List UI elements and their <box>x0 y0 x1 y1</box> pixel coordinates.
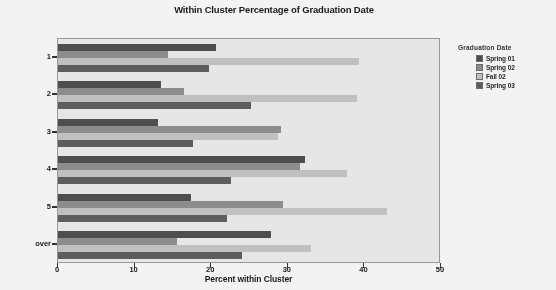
y-tick-label: 2 <box>47 89 51 98</box>
x-tick-label: 10 <box>129 265 137 274</box>
bar <box>58 58 359 65</box>
y-tick-label: 1 <box>47 52 51 61</box>
legend-label: Spring 02 <box>486 64 515 71</box>
bar <box>58 238 177 245</box>
x-tick-label: 50 <box>436 265 444 274</box>
bar <box>58 140 193 147</box>
bar <box>58 215 227 222</box>
y-tick-mark <box>52 56 57 58</box>
legend-item: Spring 03 <box>452 82 552 89</box>
y-tick-mark <box>52 206 57 208</box>
y-tick-mark <box>52 168 57 170</box>
bar-group <box>58 77 439 115</box>
bar <box>58 119 158 126</box>
bar-group <box>58 152 439 190</box>
bar <box>58 177 231 184</box>
bars-container <box>58 39 439 262</box>
legend-swatch-icon <box>476 82 483 89</box>
legend-item: Spring 02 <box>452 64 552 71</box>
chart-figure: Within Cluster Percentage of Graduation … <box>0 0 556 290</box>
bar <box>58 126 281 133</box>
legend-label: Spring 01 <box>486 55 515 62</box>
bar-group <box>58 114 439 152</box>
bar <box>58 44 216 51</box>
bar <box>58 102 251 109</box>
x-tick-label: 0 <box>55 265 59 274</box>
legend-item: Spring 01 <box>452 55 552 62</box>
bar <box>58 65 209 72</box>
bar <box>58 252 242 259</box>
legend-items: Spring 01Spring 02Fall 02Spring 03 <box>452 55 552 89</box>
bar <box>58 51 168 58</box>
bar <box>58 208 387 215</box>
bar <box>58 88 184 95</box>
legend-swatch-icon <box>476 73 483 80</box>
legend-item: Fall 02 <box>452 73 552 80</box>
legend: Graduation Date Spring 01Spring 02Fall 0… <box>452 44 552 91</box>
legend-title: Graduation Date <box>452 44 552 51</box>
x-tick-label: 20 <box>206 265 214 274</box>
x-tick-label: 40 <box>359 265 367 274</box>
bar <box>58 201 283 208</box>
legend-label: Fall 02 <box>486 73 506 80</box>
y-tick-label: 4 <box>47 164 51 173</box>
y-tick-mark <box>52 131 57 133</box>
bar <box>58 170 347 177</box>
y-tick-mark <box>52 93 57 95</box>
y-tick-label: over <box>35 239 51 248</box>
legend-label: Spring 03 <box>486 82 515 89</box>
bar <box>58 163 300 170</box>
y-tick-label: 5 <box>47 202 51 211</box>
bar-group <box>58 39 439 77</box>
bar <box>58 231 271 238</box>
bar-group <box>58 189 439 227</box>
bar <box>58 81 161 88</box>
bar <box>58 133 278 140</box>
legend-swatch-icon <box>476 64 483 71</box>
x-tick-label: 30 <box>283 265 291 274</box>
bar <box>58 245 311 252</box>
plot-area <box>57 38 440 263</box>
bar <box>58 194 191 201</box>
bar <box>58 95 357 102</box>
y-tick-label: 3 <box>47 127 51 136</box>
x-axis-title: Percent within Cluster <box>57 274 440 284</box>
y-tick-mark <box>52 243 57 245</box>
legend-swatch-icon <box>476 55 483 62</box>
bar-group <box>58 227 439 264</box>
chart-title: Within Cluster Percentage of Graduation … <box>104 4 444 15</box>
bar <box>58 156 305 163</box>
